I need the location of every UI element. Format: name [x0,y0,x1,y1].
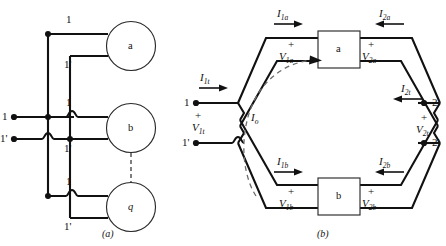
input-lead-1prime [14,133,70,139]
label-branch-q-top: 1 [66,176,72,187]
terminal-dot-2 [421,100,427,106]
caption-a: (a) [102,229,114,239]
branch-b-top-rail [48,111,108,117]
left-terminal-lead-bottom [196,137,244,143]
caption-b: (b) [317,229,329,239]
label-terminal-2: 2 [432,97,438,108]
label-branch-b-top: 1 [66,97,72,108]
current-arrow-head-1a [294,21,303,28]
label-element-a: a [128,41,133,52]
label-voltage-1a: V1a [279,51,293,65]
terminal-dot-1-left [11,114,17,120]
junction-dot-a-top [45,31,51,37]
label-input-terminal-1prime: 1' [0,133,7,144]
label-current-1t: I1t [200,72,210,86]
label-current-2t: I2t [401,83,411,97]
terminal-dot-1prime-left [11,136,17,142]
outer-rail-upper-left [238,38,318,103]
left-junction-upper-link [238,103,244,120]
label-current-1a: I1a [277,8,288,22]
current-arrow-head-1t [219,85,228,92]
label-block-a: a [336,44,341,55]
label-voltage-2b: V2b [362,198,376,212]
label-current-2a: I2a [379,8,390,22]
figure-root: 1 1' 1 1' 1 1' 1 1' a b q (a) I1a I2a + … [0,0,446,246]
diagram-a-wires [11,22,156,232]
label-branch-a-bottom: 1' [64,59,71,70]
label-block-b: b [336,191,341,202]
label-current-2b: I2b [379,156,390,170]
label-branch-q-bottom: 1' [64,221,71,232]
branch-q-top-rail [48,190,108,196]
label-polarity-1a: + [288,39,294,50]
label-branch-a-top: 1 [66,14,72,25]
label-element-q: q [128,202,133,213]
label-polarity-2t: + [421,112,427,123]
terminal-dot-1 [193,100,199,106]
label-terminal-2prime: 2' [432,137,439,148]
label-element-b: b [128,123,133,134]
label-voltage-1b: V1b [279,198,293,212]
label-voltage-2a: V2a [362,51,376,65]
label-terminal-1: 1 [184,97,190,108]
label-polarity-2b: + [368,186,374,197]
label-branch-b-bottom: 1' [64,143,71,154]
label-terminal-1prime: 1' [182,137,189,148]
figure-canvas [0,0,446,246]
terminal-dot-1prime [193,140,199,146]
junction-dot-q-top [45,193,51,199]
label-voltage-2t: V2t [416,124,429,138]
terminal-dot-2prime [421,140,427,146]
label-input-terminal-1: 1 [2,111,8,122]
junction-dot-b-top [45,114,51,120]
current-arrow-head-1b [294,169,303,176]
diagram-b-wires [193,21,440,216]
label-current-1b: I1b [277,156,288,170]
label-polarity-1b: + [288,186,294,197]
label-polarity-1t: + [195,110,201,121]
label-polarity-2a: + [368,39,374,50]
label-circulating-current: Io [251,112,258,126]
circulating-current-arc [244,60,312,196]
outer-rail-lower-left [238,143,318,208]
label-voltage-1t: V1t [192,122,205,136]
